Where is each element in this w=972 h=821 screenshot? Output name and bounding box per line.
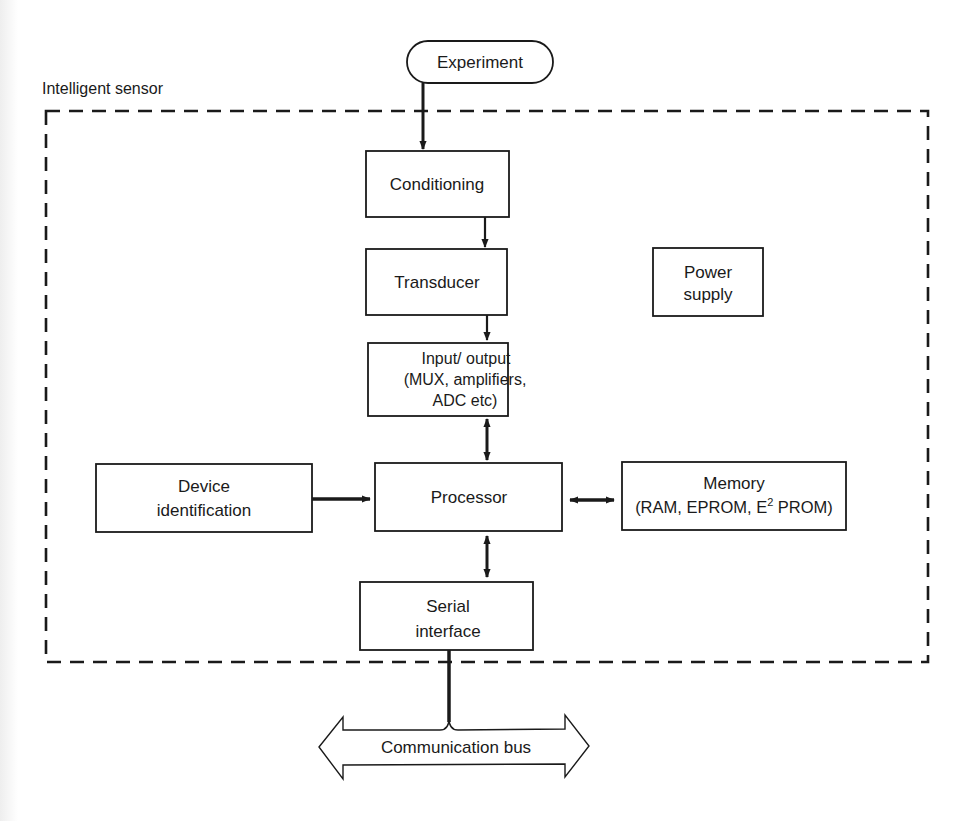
serial-label-line2: interface — [415, 622, 480, 641]
processor-label: Processor — [431, 488, 508, 507]
bus-label: Communication bus — [381, 738, 531, 757]
intelligent-sensor-diagram: Intelligent sensor Experiment Conditioni… — [0, 0, 972, 821]
serial-label-line1: Serial — [426, 597, 469, 616]
memory-label-line2: (RAM, EPROM, E2 PROM) — [635, 496, 833, 516]
node-serial-interface: Serial interface — [360, 582, 533, 650]
transducer-label: Transducer — [394, 273, 480, 292]
node-memory: Memory (RAM, EPROM, E2 PROM) — [622, 462, 846, 530]
node-transducer: Transducer — [366, 249, 507, 315]
node-input-output: Input/ output (MUX, amplifiers, ADC etc) — [368, 343, 526, 416]
device-id-label-line1: Device — [178, 477, 230, 496]
node-experiment: Experiment — [407, 41, 553, 83]
io-label-line2: (MUX, amplifiers, — [404, 371, 527, 388]
power-supply-label-line2: supply — [683, 285, 733, 304]
conditioning-label: Conditioning — [390, 175, 485, 194]
node-power-supply: Power supply — [653, 248, 763, 316]
memory-label-line1: Memory — [703, 474, 765, 493]
node-device-identification: Device identification — [96, 464, 312, 532]
communication-bus: Communication bus — [319, 715, 589, 779]
io-label-line3: ADC etc) — [433, 392, 498, 409]
experiment-label: Experiment — [437, 53, 523, 72]
power-supply-label-line1: Power — [684, 263, 733, 282]
device-id-label-line2: identification — [157, 501, 252, 520]
node-conditioning: Conditioning — [366, 151, 509, 217]
io-label-line1: Input/ output — [422, 350, 512, 367]
node-processor: Processor — [375, 463, 562, 531]
boundary-label: Intelligent sensor — [42, 80, 164, 97]
